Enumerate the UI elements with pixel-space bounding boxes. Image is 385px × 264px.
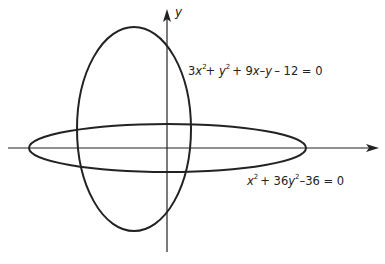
ellipse-vertical	[77, 27, 191, 231]
equation-label-horizontal-ellipse: x2+ 36y2–36 = 0	[246, 173, 344, 188]
diagram-canvas: y 3x2+ y2+ 9x–y– 12 = 0 x2+ 36y2–36 = 0	[0, 0, 385, 264]
y-axis-label: y	[174, 5, 183, 19]
equation-label-vertical-ellipse: 3x2+ y2+ 9x–y– 12 = 0	[188, 63, 322, 78]
